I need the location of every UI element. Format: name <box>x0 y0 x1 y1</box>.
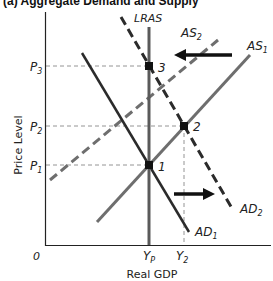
p2-label: P2 <box>30 120 42 136</box>
point-3-marker <box>145 62 153 70</box>
as1-curve <box>97 55 250 222</box>
as1-label: AS1 <box>246 39 268 55</box>
ad1-curve <box>82 53 189 232</box>
point-3-label: 3 <box>158 61 166 75</box>
lras-label: LRAS <box>134 12 162 25</box>
x-axis-title: Real GDP <box>127 268 178 281</box>
ad1-label: AD1 <box>194 225 218 241</box>
ad2-label: AD2 <box>239 202 263 218</box>
point-2-label: 2 <box>193 120 201 134</box>
p3-label: P3 <box>30 60 42 76</box>
ad2-curve <box>121 17 233 210</box>
ad-as-diagram: 3 2 1 LRAS AS2 AS1 AD2 AD1 P3 P2 P1 YP Y… <box>0 0 273 281</box>
yp-label: YP <box>143 249 155 265</box>
point-2-marker <box>180 122 188 130</box>
p1-label: P1 <box>30 159 42 175</box>
origin-label: 0 <box>33 250 40 263</box>
y2-label: Y2 <box>176 249 188 265</box>
point-1-marker <box>145 161 153 169</box>
y-axis-title: Price Level <box>12 115 25 174</box>
ad-shift-arrow <box>174 188 215 200</box>
as2-label: AS2 <box>180 26 202 42</box>
as2-curve <box>50 40 218 180</box>
point-1-label: 1 <box>158 160 166 174</box>
